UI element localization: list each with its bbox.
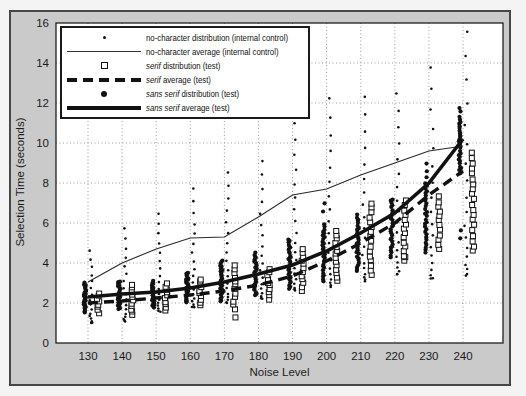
no-character-point [364, 147, 367, 150]
no-character-point [193, 297, 196, 300]
no-character-point [293, 183, 296, 186]
no-character-point [261, 173, 264, 176]
sans-serif-point [458, 236, 462, 240]
no-character-point [125, 308, 128, 311]
y-tick-label: 4 [43, 257, 50, 269]
no-character-point [295, 169, 298, 172]
no-character-point [225, 260, 228, 263]
no-character-point [396, 249, 399, 252]
no-character-point [122, 280, 125, 283]
no-character-point [294, 138, 297, 141]
no-character-point [293, 267, 296, 270]
no-character-point [226, 299, 229, 302]
legend-symbol-cell [62, 62, 146, 69]
no-character-point [466, 247, 469, 250]
no-character-point [329, 134, 332, 137]
legend-label: serif average (test) [146, 74, 211, 85]
legend-symbol-cell [62, 51, 146, 52]
no-character-point [192, 243, 195, 246]
no-character-point [192, 212, 195, 215]
no-character-point [124, 315, 127, 318]
no-character-point [364, 130, 367, 133]
sans-serif-point [118, 280, 122, 284]
no-character-point [329, 284, 332, 287]
no-character-point [430, 87, 433, 90]
no-character-point [260, 254, 263, 257]
no-character-point [363, 163, 366, 166]
no-character-point [225, 251, 228, 254]
serif-point [164, 281, 169, 286]
no-character-point [466, 102, 469, 105]
no-character-point [293, 282, 296, 285]
no-character-point [294, 196, 297, 199]
no-character-point [397, 110, 400, 113]
no-character-point [260, 224, 263, 227]
no-character-point [159, 275, 162, 278]
no-character-point [191, 251, 194, 254]
no-character-point [327, 220, 330, 223]
no-character-point [465, 236, 468, 239]
no-character-point [396, 231, 399, 234]
legend-symbol-cell [62, 91, 146, 97]
no-character-point [193, 223, 196, 226]
no-character-point [91, 265, 94, 268]
serif-point [471, 244, 476, 249]
x-tick-label: 190 [283, 350, 302, 362]
no-character-point [294, 251, 297, 254]
sans-serif-point [355, 212, 359, 216]
serif-point [368, 263, 373, 268]
no-character-point [432, 128, 435, 131]
no-character-point [466, 30, 469, 33]
no-character-point [430, 254, 433, 257]
no-character-point [429, 66, 432, 69]
no-character-point [398, 270, 401, 273]
no-character-point [124, 313, 127, 316]
no-character-point [123, 265, 126, 268]
sans-serif-point [424, 175, 428, 179]
no-character-point [90, 308, 93, 311]
sans-serif-point [457, 106, 461, 110]
no-character-point [431, 262, 434, 265]
no-character-point [191, 300, 194, 303]
no-character-point [295, 259, 298, 262]
no-character-point [464, 162, 467, 165]
no-character-point [158, 281, 161, 284]
no-character-point [192, 303, 195, 306]
no-character-point [157, 307, 160, 310]
no-character-point [429, 246, 432, 249]
no-character-point [225, 221, 228, 224]
y-tick-label: 16 [36, 17, 49, 29]
thick-dash-icon [67, 78, 141, 82]
y-tick-label: 8 [43, 177, 49, 189]
no-character-point [226, 302, 229, 305]
open-square-icon [101, 62, 108, 69]
no-character-point [227, 269, 230, 272]
no-character-point [466, 179, 469, 182]
no-character-point [157, 223, 160, 226]
y-tick-label: 0 [43, 337, 49, 349]
y-tick-label: 14 [36, 57, 49, 69]
no-character-point [295, 278, 298, 281]
x-tick-label: 180 [249, 350, 268, 362]
no-character-point [329, 208, 332, 211]
serif-point [437, 209, 442, 214]
y-tick-label: 10 [36, 137, 49, 149]
no-character-point [261, 234, 264, 237]
no-character-point [159, 252, 162, 255]
no-character-point [294, 242, 297, 245]
sans-serif-point [322, 201, 326, 205]
legend-item: no-character distribution (internal cont… [62, 31, 308, 44]
no-character-point [363, 191, 366, 194]
no-character-point [466, 268, 469, 271]
no-character-point [294, 220, 297, 223]
no-character-point [89, 313, 92, 316]
serif-point [470, 177, 475, 182]
no-character-point [398, 173, 401, 176]
no-character-point [125, 248, 128, 251]
sans-serif-point [322, 222, 326, 226]
no-character-point [430, 211, 433, 214]
no-character-point [431, 223, 434, 226]
no-character-point [261, 201, 264, 204]
no-character-point [327, 232, 330, 235]
no-character-point [90, 287, 93, 290]
